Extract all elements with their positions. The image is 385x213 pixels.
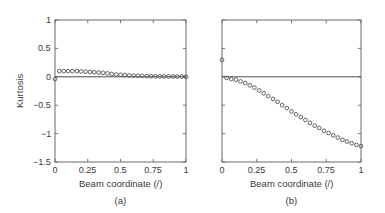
data-point	[336, 136, 340, 140]
data-point	[317, 126, 321, 130]
data-point	[266, 94, 270, 98]
x-tick-label: 0.5	[285, 165, 298, 175]
data-point	[119, 73, 123, 77]
data-point	[57, 69, 61, 73]
data-point	[257, 89, 261, 93]
x-axis-label-a: Beam coordinate (/)	[79, 178, 162, 189]
y-tick-label: −0.5	[33, 100, 51, 110]
x-tick-label: 0.5	[114, 165, 127, 175]
data-point	[88, 70, 92, 74]
data-point	[97, 71, 101, 75]
data-point	[322, 129, 326, 133]
data-point	[327, 131, 331, 135]
data-point	[154, 74, 158, 78]
data-point	[66, 69, 70, 73]
x-tick-label: 0	[53, 165, 58, 175]
figure-container: Kurtosis Beam coordinate (/) (a) 00.250.…	[0, 0, 385, 213]
y-tick-label: −1	[41, 129, 51, 139]
data-point	[290, 110, 294, 114]
data-point	[71, 69, 75, 73]
data-point	[62, 69, 66, 73]
x-axis-label-b: Beam coordinate (/)	[250, 178, 333, 189]
panel-a: Kurtosis Beam coordinate (/) (a) 00.250.…	[0, 0, 193, 213]
data-point	[149, 74, 153, 78]
data-point	[253, 86, 257, 90]
x-tick-label: 1	[359, 165, 364, 175]
data-point	[299, 115, 303, 119]
x-tick-label: 0.75	[317, 165, 335, 175]
data-point	[75, 69, 79, 73]
data-point	[294, 112, 298, 116]
data-point	[271, 97, 275, 101]
data-point	[114, 73, 118, 77]
x-tick-label: 0.25	[79, 165, 97, 175]
y-tick-label: −1.5	[33, 157, 51, 167]
data-point	[308, 121, 312, 125]
data-point	[304, 118, 308, 122]
data-point	[239, 79, 243, 83]
data-point	[280, 103, 284, 107]
data-point	[106, 72, 110, 76]
panel-b: Beam coordinate (/) (b) 00.250.50.751	[192, 0, 385, 213]
y-tick-label: 1	[46, 15, 51, 25]
data-point	[262, 91, 266, 95]
data-point	[84, 70, 88, 74]
data-point	[248, 83, 252, 87]
y-tick-label: 0	[46, 72, 51, 82]
data-point	[313, 124, 317, 128]
x-tick-label: 1	[184, 165, 189, 175]
data-point	[145, 74, 149, 78]
data-point	[331, 133, 335, 137]
data-point	[355, 143, 359, 147]
data-point	[285, 106, 289, 110]
y-axis-label: Kurtosis	[14, 74, 25, 108]
panel-caption-b: (b)	[286, 195, 298, 206]
data-point	[243, 81, 247, 85]
x-tick-label: 0.75	[144, 165, 162, 175]
data-point	[350, 141, 354, 145]
data-point	[341, 138, 345, 142]
panel-caption-a: (a)	[115, 195, 127, 206]
data-point	[79, 70, 83, 74]
data-point	[229, 77, 233, 81]
x-tick-label: 0	[220, 165, 225, 175]
data-point	[276, 100, 280, 104]
data-point	[92, 70, 96, 74]
data-point	[110, 72, 114, 76]
x-tick-label: 0.25	[248, 165, 266, 175]
data-point	[345, 140, 349, 144]
y-tick-label: 0.5	[38, 43, 51, 53]
data-point	[234, 78, 238, 82]
data-point	[101, 71, 105, 75]
